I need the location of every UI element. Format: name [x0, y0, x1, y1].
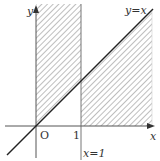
coordinate-diagram: y x O 1 y=x x=1	[0, 0, 160, 161]
tick-label-1: 1	[73, 129, 80, 142]
x-axis-label: x	[150, 130, 157, 143]
line-label-x-eq-1: x=1	[83, 147, 105, 160]
origin-label: O	[40, 129, 49, 142]
line-label-y-eq-x: y=x	[124, 4, 147, 17]
hatched-region-strip	[36, 4, 81, 126]
y-axis-label: y	[26, 5, 34, 18]
hatched-region-right	[81, 10, 152, 126]
